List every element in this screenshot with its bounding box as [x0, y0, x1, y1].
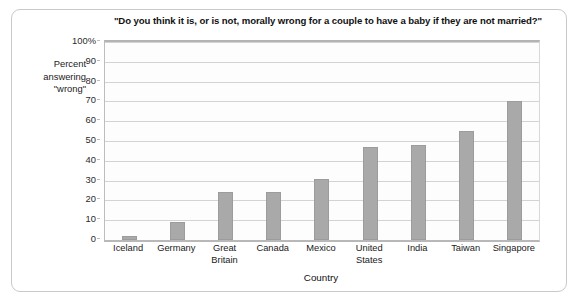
- bar-slot: [443, 42, 491, 240]
- bar-slot: [346, 42, 394, 240]
- chart-title: "Do you think it is, or is not, morally …: [80, 15, 576, 26]
- y-axis-tick-label: 30: [86, 173, 96, 184]
- bar[interactable]: [507, 101, 522, 240]
- y-axis-tick-label: 20: [86, 193, 96, 204]
- bar[interactable]: [363, 147, 378, 240]
- x-axis-tick-label-mexico: Mexico: [297, 243, 345, 266]
- x-axis-tick-label-india: India: [393, 243, 441, 266]
- y-axis-tick-mark: [97, 99, 100, 100]
- x-axis-tick-label-canada: Canada: [249, 243, 297, 266]
- y-axis-tick-mark: [97, 179, 100, 180]
- y-axis-tick-label: 50: [86, 134, 96, 145]
- y-axis-tick-mark: [97, 238, 100, 239]
- y-axis-tick-mark: [97, 60, 100, 61]
- x-axis-tick-label-taiwan: Taiwan: [442, 243, 490, 266]
- y-axis-tick-label: 80: [86, 74, 96, 85]
- x-axis-tick-labels: IcelandGermanyGreat BritainCanadaMexicoU…: [104, 243, 538, 266]
- x-axis-tick-label-singapore: Singapore: [490, 243, 538, 266]
- bar-slot: [298, 42, 346, 240]
- y-axis-tick-label: 60: [86, 114, 96, 125]
- x-axis-tick-label-great-britain: Great Britain: [200, 243, 248, 266]
- bar[interactable]: [411, 145, 426, 240]
- x-axis-tick-label-iceland: Iceland: [104, 243, 152, 266]
- bar[interactable]: [170, 222, 185, 240]
- y-axis-tick-labels: 0102030405060708090100%: [56, 40, 100, 238]
- bar[interactable]: [266, 192, 281, 240]
- y-axis-tick-label: 40: [86, 153, 96, 164]
- y-axis-tick-label: 0: [91, 233, 96, 244]
- x-axis-tick-label-germany: Germany: [152, 243, 200, 266]
- bar[interactable]: [314, 179, 329, 240]
- bar[interactable]: [218, 192, 233, 240]
- bar[interactable]: [122, 236, 137, 240]
- y-axis-tick-mark: [97, 159, 100, 160]
- bar-slot: [250, 42, 298, 240]
- y-axis-tick-label: 100%: [72, 35, 96, 46]
- y-axis-tick-mark: [97, 139, 100, 140]
- bar-slot: [394, 42, 442, 240]
- bar-slot: [491, 42, 539, 240]
- y-axis-tick-label: 70: [86, 94, 96, 105]
- y-axis-tick-mark: [97, 119, 100, 120]
- x-axis-tick-label-united-states: United States: [345, 243, 393, 266]
- bar-series: [105, 42, 539, 240]
- y-axis-tick-mark: [97, 40, 100, 41]
- y-axis-tick-label: 90: [86, 54, 96, 65]
- bar-slot: [153, 42, 201, 240]
- y-axis-tick-mark: [97, 218, 100, 219]
- y-axis-tick-label: 10: [86, 213, 96, 224]
- y-axis-tick-mark: [97, 80, 100, 81]
- y-axis-tick-mark: [97, 198, 100, 199]
- bar-slot: [105, 42, 153, 240]
- plot-area: [104, 40, 540, 242]
- x-axis-title: Country: [104, 272, 538, 283]
- bar-slot: [201, 42, 249, 240]
- bar[interactable]: [459, 131, 474, 240]
